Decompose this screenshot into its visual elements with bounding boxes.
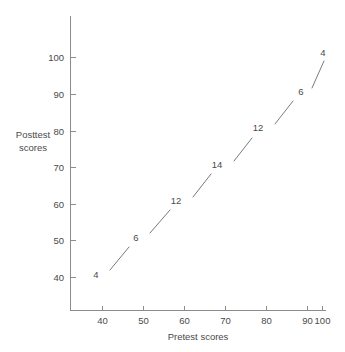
y-axis-title-line-2: scores: [2, 142, 64, 155]
point-count-label-70: 14: [206, 160, 228, 170]
point-count-label-60: 12: [165, 196, 187, 206]
y-tick-label-90: 90: [38, 90, 64, 100]
line-segment-5: [275, 101, 293, 124]
point-count-label-40: 4: [86, 270, 106, 280]
point-count-label-100: 4: [313, 48, 333, 58]
y-tick-label-100: 100: [38, 53, 64, 63]
line-segment-3: [193, 174, 211, 197]
x-tick-label-40: 40: [88, 316, 117, 326]
y-axis-title: Posttest scores: [2, 129, 64, 155]
x-tick-label-80: 80: [252, 316, 281, 326]
y-axis-title-line-1: Posttest: [2, 129, 64, 142]
y-tick-label-70: 70: [38, 163, 64, 173]
x-tick-marks: [103, 306, 323, 311]
y-tick-label-50: 50: [38, 236, 64, 246]
point-count-label-80: 12: [247, 123, 269, 133]
y-tick-marks: [71, 58, 76, 278]
x-tick-label-70: 70: [211, 316, 240, 326]
y-tick-label-40: 40: [38, 273, 64, 283]
x-axis-title: Pretest scores: [148, 331, 248, 344]
y-tick-label-60: 60: [38, 200, 64, 210]
line-segment-2: [150, 210, 170, 233]
line-segment-6: [312, 61, 324, 88]
x-tick-label-100: 100: [308, 316, 337, 326]
line-segment-1: [110, 247, 129, 270]
x-tick-label-60: 60: [170, 316, 199, 326]
line-segment-4: [234, 138, 252, 161]
axis-spines: [71, 16, 327, 311]
point-count-label-50: 6: [126, 233, 146, 243]
point-count-label-90: 6: [291, 87, 311, 97]
chart-figure: 100 90 80 70 60 50 40 40 50 60 70 80 90 …: [0, 0, 345, 352]
x-tick-label-50: 50: [129, 316, 158, 326]
